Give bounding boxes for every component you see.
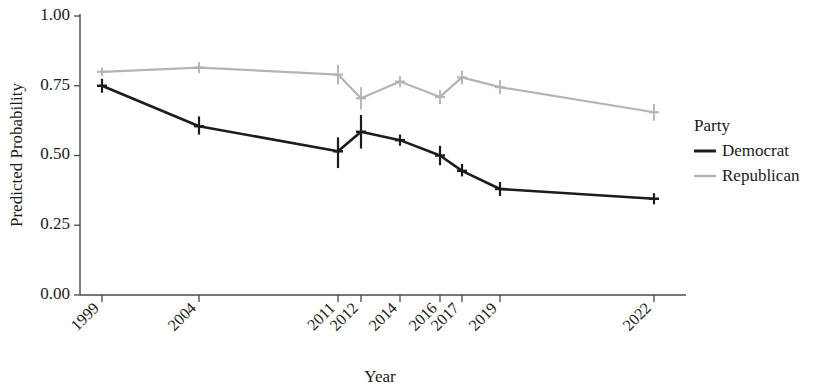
legend-items: DemocratRepublican: [694, 141, 800, 185]
x-tick-label: 2012: [326, 299, 361, 334]
series-line: [102, 68, 654, 113]
legend: Party DemocratRepublican: [694, 116, 800, 185]
y-tick-label: 1.00: [40, 5, 70, 24]
series-republican: [97, 62, 659, 121]
x-tick-label: 2019: [465, 299, 500, 334]
y-tick-label: 0.25: [40, 214, 70, 233]
legend-item-label: Republican: [722, 166, 800, 185]
legend-item-label: Democrat: [722, 141, 789, 160]
y-axis: 0.000.250.500.751.00: [40, 5, 80, 303]
series-line: [102, 86, 654, 199]
y-tick-label: 0.00: [40, 284, 70, 303]
series-democrat: [97, 79, 659, 205]
x-tick-label: 2014: [365, 299, 400, 334]
y-axis-title: Predicted Probability: [7, 83, 26, 228]
legend-title: Party: [694, 116, 730, 135]
x-axis: 199920042011201220142016201720192022: [67, 295, 686, 334]
data-series-group: [97, 62, 659, 204]
chart-figure: 0.000.250.500.751.00 1999200420112012201…: [0, 0, 823, 389]
legend-item-republican[interactable]: Republican: [694, 166, 800, 185]
y-tick-label: 0.50: [40, 144, 70, 163]
legend-item-democrat[interactable]: Democrat: [694, 141, 789, 160]
x-tick-label: 2004: [164, 299, 199, 334]
predicted-probability-line-chart: 0.000.250.500.751.00 1999200420112012201…: [0, 0, 823, 389]
y-tick-label: 0.75: [40, 75, 70, 94]
x-tick-label: 2022: [619, 299, 654, 334]
x-axis-title: Year: [364, 367, 396, 386]
x-tick-label: 1999: [67, 299, 102, 334]
